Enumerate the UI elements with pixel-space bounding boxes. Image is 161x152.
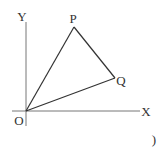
y-axis-label: Y xyxy=(17,9,27,24)
closing-paren-mark: ) xyxy=(152,132,156,147)
point-q-label: Q xyxy=(116,73,126,88)
point-p-label: P xyxy=(69,11,76,26)
coordinate-diagram: Y X O P Q ) xyxy=(0,0,161,152)
segment-oq xyxy=(26,78,115,111)
x-axis-label: X xyxy=(141,104,151,119)
segment-pq xyxy=(74,27,115,78)
origin-label: O xyxy=(14,113,23,128)
segment-op xyxy=(26,27,74,111)
